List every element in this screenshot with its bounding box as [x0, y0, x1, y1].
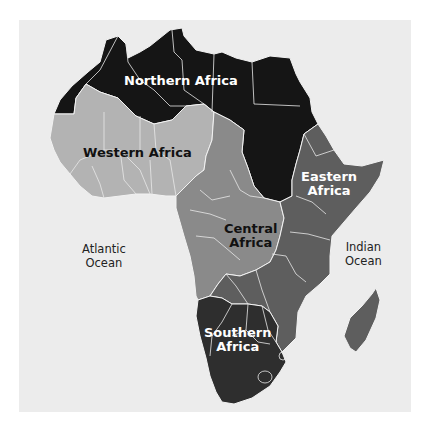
label-indian-ocean: Indian Ocean	[345, 240, 382, 268]
label-southern-line2: Africa	[204, 340, 272, 354]
madagascar[interactable]	[344, 288, 380, 352]
label-southern-africa: Southern Africa	[204, 326, 272, 354]
label-eastern-line1: Eastern	[301, 170, 357, 184]
label-atlantic-ocean: Atlantic Ocean	[82, 242, 126, 270]
africa-map	[0, 0, 427, 424]
label-central-line2: Africa	[224, 236, 277, 250]
label-northern-africa: Northern Africa	[124, 74, 238, 88]
atlantic-line2: Ocean	[82, 256, 126, 270]
indian-line1: Indian	[345, 240, 382, 254]
label-western-africa: Western Africa	[83, 146, 192, 160]
label-eastern-line2: Africa	[301, 184, 357, 198]
label-southern-line1: Southern	[204, 326, 272, 340]
label-central-line1: Central	[224, 222, 277, 236]
atlantic-line1: Atlantic	[82, 242, 126, 256]
label-eastern-africa: Eastern Africa	[301, 170, 357, 198]
label-central-africa: Central Africa	[224, 222, 277, 250]
indian-line2: Ocean	[345, 254, 382, 268]
